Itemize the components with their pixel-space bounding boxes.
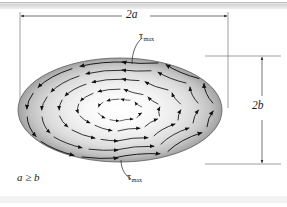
tau-max-label-bottom: τmax	[127, 172, 142, 183]
minor-axis-label: 2b	[252, 100, 264, 112]
tau-max-label-top: τmax	[139, 31, 154, 42]
torsion-ellipse-figure: 2a 2b a ≥ b τmax τmax	[0, 0, 287, 207]
condition-label: a ≥ b	[17, 172, 40, 183]
tau-subscript-bottom: max	[131, 176, 142, 183]
page-band-bottom	[0, 196, 287, 203]
page-band-top	[0, 2, 287, 9]
tau-subscript-top: max	[143, 35, 154, 42]
major-axis-label: 2a	[126, 9, 138, 21]
